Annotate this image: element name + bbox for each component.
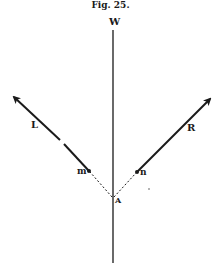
dashed-line-am [90,172,112,197]
label-n: n [140,167,147,177]
label-w: W [109,16,120,27]
force-arrow-r [137,99,210,172]
label-l: L [31,119,38,130]
label-r: R [187,122,195,133]
label-m: m [77,166,87,176]
point-m [87,169,91,173]
dashed-line-an [114,173,136,197]
stray-dot [148,188,150,190]
point-n [135,170,139,174]
label-a: A [115,195,121,205]
